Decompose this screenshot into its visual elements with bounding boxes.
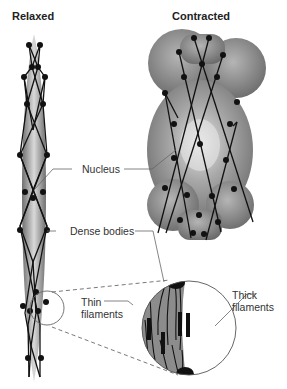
thick-filaments-line2: filaments — [232, 301, 274, 313]
filament-inset — [130, 277, 240, 381]
dense-bodies-leader-right — [135, 231, 164, 282]
title-contracted: Contracted — [172, 10, 230, 22]
contracted-cell — [147, 29, 266, 240]
thin-filaments-line1: Thin — [81, 296, 123, 308]
smooth-muscle-diagram — [0, 0, 287, 389]
thin-filaments-line2: filaments — [81, 308, 123, 320]
label-thick-filaments: Thick filaments — [232, 289, 274, 313]
title-relaxed: Relaxed — [12, 10, 54, 22]
thick-filaments-line1: Thick — [232, 289, 274, 301]
label-dense-bodies: Dense bodies — [70, 225, 134, 237]
relaxed-cell — [17, 34, 64, 382]
label-thin-filaments: Thin filaments — [81, 296, 123, 320]
label-nucleus: Nucleus — [82, 163, 120, 175]
